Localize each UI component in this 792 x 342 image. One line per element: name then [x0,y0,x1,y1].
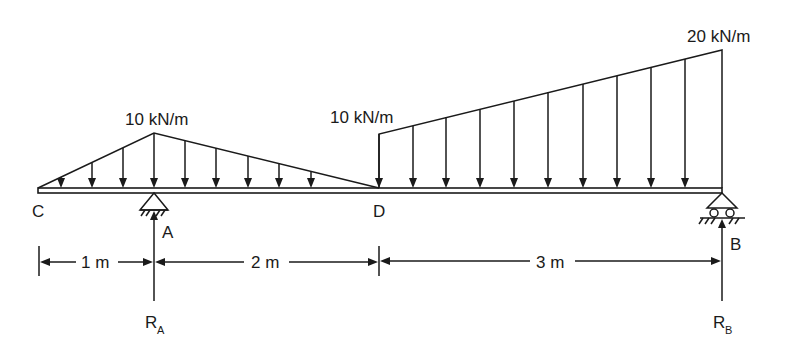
dimension-label-ca: 1 m [81,253,109,272]
reaction-arrow-a [150,211,158,301]
dimension-label-db: 3 m [536,253,564,272]
reaction-arrow-b [718,219,726,301]
dimension-lines [39,246,721,276]
svg-text:B: B [725,324,732,336]
start-load-label-d: 10 kN/m [330,108,393,127]
svg-text:R: R [713,313,725,332]
end-load-label-b: 20 kN/m [687,27,750,46]
point-label-a: A [162,223,174,242]
reaction-label-a: R A [145,313,165,336]
svg-text:R: R [145,313,157,332]
point-label-b: B [730,235,741,254]
beam-diagram: 10 kN/m 10 kN/m 20 kN/m C A D B [0,0,792,342]
point-label-d: D [373,202,385,221]
trapezoidal-load [375,50,722,188]
dimension-label-ad: 2 m [251,253,279,272]
triangular-load [38,133,379,188]
reaction-label-b: R B [713,313,732,336]
beam [38,188,722,193]
peak-load-label-a: 10 kN/m [125,110,188,129]
point-label-c: C [32,202,44,221]
svg-text:A: A [157,324,165,336]
